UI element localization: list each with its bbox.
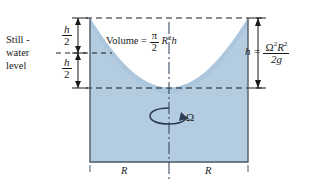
- height-eq-radius-exponent: 2: [284, 40, 288, 48]
- height-eq-radius: R: [277, 41, 284, 53]
- diagram-canvas: [0, 0, 310, 184]
- volume-formula-lhs: Volume =: [106, 35, 147, 46]
- volume-formula-label: Volume = π 2 R2h: [106, 31, 177, 53]
- height-equation-lhs: h =: [245, 45, 261, 57]
- upper-half-height-label: h 2: [62, 24, 72, 47]
- radius-left-label: R: [121, 166, 127, 177]
- still-water-line-2: water: [6, 46, 58, 59]
- still-water-line-1: Still -: [6, 33, 58, 46]
- still-water-line-3: level: [6, 59, 58, 72]
- lower-half-height-label: h 2: [62, 57, 72, 80]
- volume-formula-denominator: 2: [150, 43, 159, 54]
- omega-axis-label: Ω: [186, 112, 194, 123]
- radius-right-label: R: [205, 166, 211, 177]
- rotating-fluid-diagram: Still - water level h 2 h 2 Volume = π 2…: [0, 0, 310, 184]
- height-equation-numerator: Ω2R2: [263, 41, 289, 54]
- lower-half-height-denominator: 2: [62, 69, 72, 80]
- left-dimension-line: [72, 18, 88, 88]
- still-water-level-label: Still - water level: [6, 33, 58, 72]
- height-eq-omega: Ω: [265, 41, 273, 53]
- height-equation-label: h = Ω2R2 2g: [245, 41, 289, 65]
- volume-formula-numerator: π: [150, 31, 159, 43]
- height-equation-denominator: 2g: [263, 54, 289, 65]
- volume-formula-height: h: [172, 35, 177, 46]
- upper-half-height-denominator: 2: [62, 36, 72, 47]
